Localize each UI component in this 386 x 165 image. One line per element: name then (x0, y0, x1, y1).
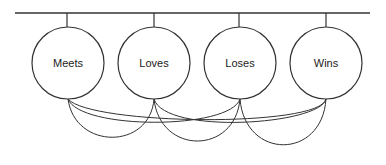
edges (68, 99, 326, 145)
node-label: Loves (139, 57, 169, 69)
node-loves: Loves (118, 27, 190, 99)
node-connectors (67, 13, 326, 27)
network-diagram: Meets Loves Loses Wins (0, 0, 386, 165)
node-meets: Meets (32, 27, 104, 99)
node-label: Loses (225, 57, 255, 69)
node-label: Meets (53, 57, 83, 69)
node-wins: Wins (290, 27, 362, 99)
node-loses: Loses (204, 27, 276, 99)
edge-meets-loves (68, 99, 154, 137)
nodes: Meets Loves Loses Wins (32, 27, 362, 99)
edge-meets-wins (68, 99, 326, 120)
node-label: Wins (314, 57, 339, 69)
